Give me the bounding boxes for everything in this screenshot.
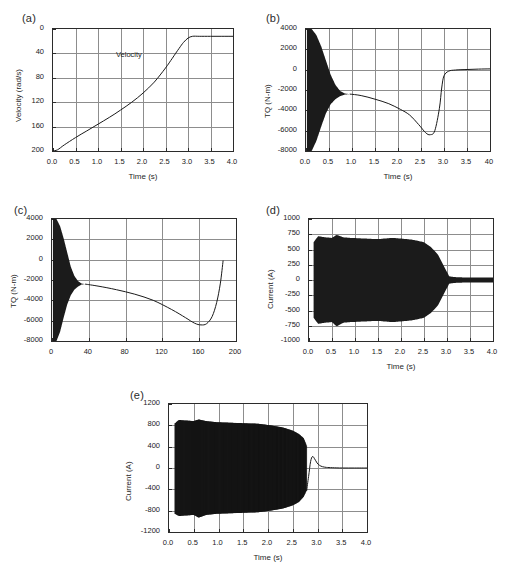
x-tick-mark [493, 338, 494, 341]
y-tick-mark [306, 151, 309, 152]
x-tick-label: 2.5 [418, 348, 428, 356]
y-tick-mark [169, 532, 172, 533]
x-tick-label: 0.5 [326, 348, 336, 356]
x-tick-label: 1.5 [114, 158, 124, 166]
x-tick-label: 2.0 [262, 539, 272, 547]
y-tick-label: -2000 [24, 275, 43, 283]
y-tick-label: -500 [285, 306, 300, 314]
plot-curves [169, 404, 367, 532]
x-tick-label: 40 [84, 348, 92, 356]
x-tick-label: 200 [229, 348, 242, 356]
x-tick-label: 0.5 [69, 158, 79, 166]
y-tick-label: 40 [36, 49, 44, 57]
y-tick-label: 400 [147, 442, 160, 450]
panel-d-xtick-area: 0.00.51.01.52.02.53.03.54.0 [308, 345, 494, 357]
y-tick-label: 120 [31, 97, 44, 105]
y-tick-label: 1200 [143, 399, 160, 407]
x-tick-mark [490, 148, 491, 151]
panel-a: (a) 04080120160200 0.00.51.01.52.02.53.0… [0, 0, 258, 196]
plot-curves [52, 219, 236, 341]
y-tick-label: -6000 [24, 316, 43, 324]
x-tick-mark [367, 529, 368, 532]
panel-c-xtick-area: 04080120160200 [51, 345, 237, 357]
y-tick-label: 0 [293, 65, 297, 73]
y-tick-mark [52, 341, 55, 342]
panel-b-xaxis-label: Time (s) [383, 172, 412, 181]
y-tick-label: -4000 [278, 106, 297, 114]
x-tick-label: 4.0 [361, 539, 371, 547]
x-tick-mark [236, 338, 237, 341]
x-tick-label: 3.5 [204, 158, 214, 166]
x-tick-label: 3.0 [441, 348, 451, 356]
panel-d-yaxis-label: Current (A) [266, 269, 275, 309]
y-tick-label: -800 [145, 506, 160, 514]
y-tick-label: -250 [285, 291, 300, 299]
panel-a-velocity-annotation: Velocity [116, 50, 142, 59]
panel-a-yaxis-label: Velocity (rad/s) [14, 69, 23, 122]
y-tick-label: 200 [31, 146, 44, 154]
panel-e-ytick-area: 12008004000-400-800-1200 [130, 403, 165, 533]
x-tick-label: 3.5 [464, 348, 474, 356]
oscillation-envelope [307, 29, 350, 151]
x-tick-label: 0 [49, 348, 53, 356]
panel-d-plot-area [308, 218, 494, 342]
panel-a-plot-area [52, 28, 234, 152]
x-tick-label: 120 [155, 348, 168, 356]
panel-e-letter: (e) [130, 389, 144, 401]
y-tick-label: 2000 [280, 45, 297, 53]
panel-e-xaxis-label: Time (s) [253, 553, 282, 562]
panel-c: (c) 400020000-2000-4000-6000-8000 040801… [0, 196, 258, 392]
y-tick-label: 80 [36, 73, 44, 81]
x-tick-label: 1.0 [212, 539, 222, 547]
x-tick-label: 160 [192, 348, 205, 356]
x-tick-label: 1.0 [349, 348, 359, 356]
y-tick-label: 0 [156, 463, 160, 471]
data-curve [53, 36, 233, 151]
plot-curves [309, 219, 493, 341]
x-tick-label: 0.0 [47, 158, 57, 166]
y-tick-label: 0 [296, 275, 300, 283]
y-tick-label: -1200 [141, 527, 160, 535]
x-tick-label: 2.0 [395, 348, 405, 356]
x-tick-label: 40 [485, 158, 493, 166]
y-tick-mark [309, 341, 312, 342]
y-tick-label: -750 [285, 321, 300, 329]
panel-a-ytick-area: 04080120160200 [22, 28, 49, 152]
x-tick-label: 2.5 [287, 539, 297, 547]
oscillation-envelope [53, 219, 85, 341]
y-tick-label: 1000 [283, 214, 300, 222]
panel-b-letter: (b) [266, 12, 280, 24]
panel-c-yaxis-label: TQ (N-m) [9, 274, 18, 308]
panel-e-yaxis-label: Current (A) [124, 461, 133, 501]
panel-d: (d) 10007505002500-250-500-750-1000 0.00… [258, 196, 518, 392]
y-tick-label: -400 [145, 485, 160, 493]
x-tick-label: 80 [120, 348, 128, 356]
x-tick-label: 1.0 [346, 158, 356, 166]
panel-b-ytick-area: 400020000-2000-4000-6000-8000 [268, 28, 302, 152]
y-tick-label: 250 [287, 260, 300, 268]
oscillation-cycles [175, 420, 307, 518]
y-tick-label: -2000 [278, 85, 297, 93]
panel-a-letter: (a) [22, 12, 36, 24]
x-tick-label: 4.0 [227, 158, 237, 166]
y-tick-label: 4000 [26, 214, 43, 222]
panel-d-xaxis-label: Time (s) [386, 362, 415, 371]
data-curve [307, 456, 367, 490]
panel-b-yaxis-label: TQ (N-m) [263, 84, 272, 118]
x-tick-label: 0.5 [188, 539, 198, 547]
y-tick-label: 800 [147, 421, 160, 429]
panel-b-plot-area [305, 28, 491, 152]
y-tick-label: 160 [31, 122, 44, 130]
panel-d-letter: (d) [266, 204, 280, 216]
x-tick-label: 3.5 [336, 539, 346, 547]
multi-panel-figure: (a) 04080120160200 0.00.51.01.52.02.53.0… [0, 0, 518, 573]
y-tick-label: -8000 [24, 336, 43, 344]
x-tick-label: 0.0 [163, 539, 173, 547]
panel-e: (e) 12008004000-400-800-1200 0.00.51.01.… [100, 385, 410, 573]
x-tick-label: 2.5 [159, 158, 169, 166]
panel-d-ytick-area: 10007505002500-250-500-750-1000 [272, 218, 305, 342]
x-tick-label: 3.0 [438, 158, 448, 166]
x-tick-label: 1.5 [369, 158, 379, 166]
panel-a-xaxis-label: Time (s) [128, 172, 157, 181]
panel-e-xtick-area: 0.00.51.01.52.02.53.03.54.0 [168, 536, 368, 548]
